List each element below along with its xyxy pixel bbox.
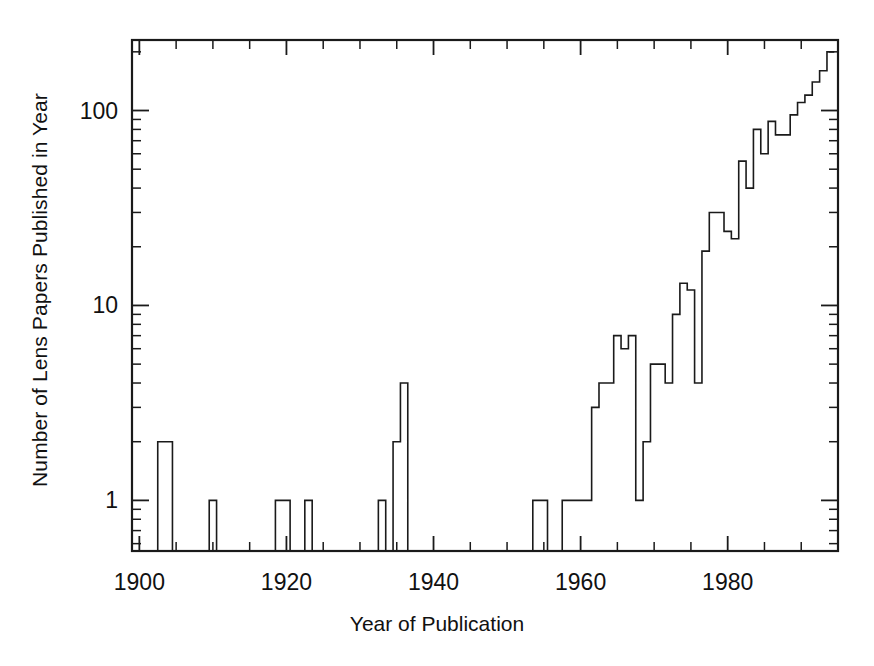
x-tick-label: 1960 — [555, 569, 606, 596]
y-axis-label-container: Number of Lens Papers Published in Year — [0, 0, 80, 580]
x-tick-label: 1900 — [114, 569, 165, 596]
plot-canvas — [0, 0, 874, 666]
x-axis-label: Year of Publication — [0, 612, 874, 636]
x-tick-label: 1980 — [702, 569, 753, 596]
y-tick-label: 10 — [92, 292, 118, 319]
y-axis-label: Number of Lens Papers Published in Year — [28, 93, 52, 487]
lens-papers-histogram-figure: Number of Lens Papers Published in Year … — [0, 0, 874, 666]
data-step-line — [136, 52, 835, 551]
axis-ticks — [132, 40, 838, 551]
y-tick-label: 100 — [80, 97, 118, 124]
axis-frame — [132, 40, 838, 551]
x-tick-label: 1940 — [408, 569, 459, 596]
x-tick-label: 1920 — [261, 569, 312, 596]
y-tick-label: 1 — [105, 487, 118, 514]
